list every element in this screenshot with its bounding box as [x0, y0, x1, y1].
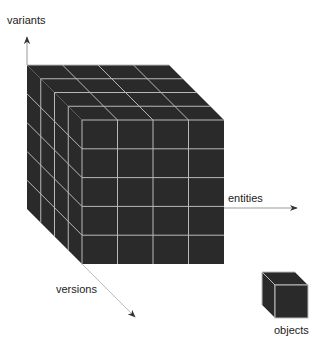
data-cube-diagram: variants entities versions objects [0, 0, 324, 347]
versions-label: versions [56, 283, 97, 295]
entities-label: entities [228, 192, 263, 204]
variants-label: variants [7, 14, 46, 26]
data-cube [27, 65, 224, 264]
object-cube-icon [262, 272, 308, 318]
objects-label: objects [274, 324, 309, 336]
